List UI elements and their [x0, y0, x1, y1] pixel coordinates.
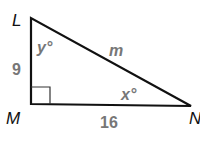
side-label-lm: 9 [12, 61, 21, 78]
angle-label-y: y° [36, 39, 53, 56]
angle-label-x: x° [120, 86, 137, 103]
side-label-ln: m [109, 42, 123, 59]
right-triangle-diagram: L M N 9 16 m y° x° [0, 0, 200, 145]
vertex-label-m: M [6, 109, 21, 128]
vertex-label-l: L [12, 11, 21, 30]
side-label-mn: 16 [100, 114, 118, 131]
vertex-label-n: N [189, 109, 200, 128]
triangle-outline [31, 18, 191, 106]
right-angle-marker [31, 87, 50, 104]
